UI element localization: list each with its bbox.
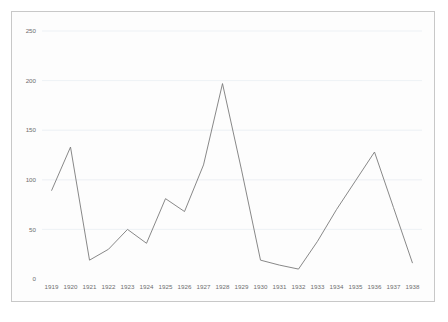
- x-tick-label: 1936: [368, 283, 382, 290]
- x-tick-label: 1932: [292, 283, 306, 290]
- x-tick-label: 1925: [159, 283, 173, 290]
- plot-frame: 050100150200250 191919201921192219231924…: [11, 11, 435, 302]
- x-tick-label: 1921: [83, 283, 97, 290]
- gridline-group: [42, 31, 422, 229]
- x-tick-label: 1933: [311, 283, 325, 290]
- x-axis-tick-labels: 1919192019211922192319241925192619271928…: [45, 283, 420, 290]
- x-tick-label: 1938: [406, 283, 420, 290]
- line-chart-plot: 050100150200250 191919201921192219231924…: [12, 12, 434, 301]
- x-tick-label: 1931: [273, 283, 287, 290]
- x-tick-label: 1924: [140, 283, 154, 290]
- y-axis-tick-labels: 050100150200250: [26, 27, 37, 282]
- y-tick-label: 50: [29, 226, 36, 233]
- x-tick-label: 1927: [197, 283, 211, 290]
- x-tick-label: 1937: [387, 283, 401, 290]
- x-tick-label: 1934: [330, 283, 344, 290]
- x-tick-label: 1920: [64, 283, 78, 290]
- x-tick-label: 1935: [349, 283, 363, 290]
- y-tick-label: 200: [26, 77, 37, 84]
- x-tick-label: 1923: [121, 283, 135, 290]
- y-tick-label: 150: [26, 126, 37, 133]
- x-tick-label: 1922: [102, 283, 116, 290]
- y-tick-label: 0: [33, 275, 37, 282]
- x-tick-label: 1926: [178, 283, 192, 290]
- x-tick-label: 1919: [45, 283, 59, 290]
- x-tick-label: 1928: [216, 283, 230, 290]
- chart-figure: 050100150200250 191919201921192219231924…: [0, 0, 448, 322]
- data-series-line: [52, 84, 413, 269]
- x-tick-label: 1929: [235, 283, 249, 290]
- y-tick-label: 250: [26, 27, 37, 34]
- x-tick-label: 1930: [254, 283, 268, 290]
- y-tick-label: 100: [26, 176, 37, 183]
